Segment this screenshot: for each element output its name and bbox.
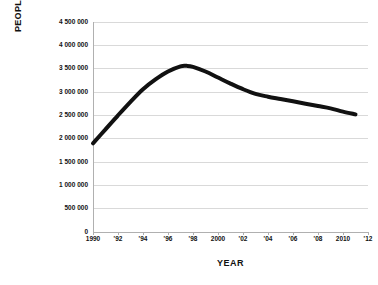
- data-line-people: [93, 66, 356, 144]
- plot-area: [0, 0, 378, 285]
- gridlines: [93, 22, 368, 232]
- axis-lines: [93, 22, 368, 235]
- chart-figure: PEOPLE 4 500 0004 000 0003 500 0003 000 …: [0, 0, 378, 285]
